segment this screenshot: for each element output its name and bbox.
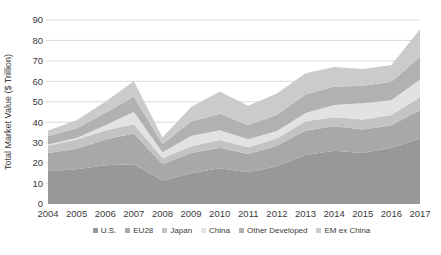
x-tick-label-2010: 2010 (209, 208, 230, 219)
y-tick-label-80: 80 (32, 35, 43, 46)
x-tick-label-2011: 2011 (238, 208, 258, 219)
legend-item-eu28: EU28 (125, 226, 153, 235)
chart-legend: U.S.EU28JapanChinaOther DevelopedEM ex C… (22, 226, 441, 235)
legend-label-other-developed: Other Developed (247, 226, 307, 235)
legend-swatch-u-s- (93, 228, 98, 233)
x-tick-label-2009: 2009 (181, 208, 202, 219)
legend-label-eu28: EU28 (133, 226, 153, 235)
legend-swatch-em-ex-china (316, 228, 321, 233)
stacked-area-chart: 0102030405060708090200420052006200720082… (0, 0, 441, 226)
x-tick-label-2006: 2006 (95, 208, 116, 219)
x-tick-label-2015: 2015 (352, 208, 373, 219)
legend-item-china: China (201, 226, 230, 235)
y-tick-label-30: 30 (32, 137, 43, 148)
x-tick-label-2008: 2008 (152, 208, 173, 219)
chart-page: Total Market Value ($ Trillion) 01020304… (0, 0, 441, 255)
legend-label-em-ex-china: EM ex China (324, 226, 370, 235)
x-tick-label-2017: 2017 (409, 208, 430, 219)
x-tick-label-2014: 2014 (324, 208, 345, 219)
legend-item-other-developed: Other Developed (239, 226, 307, 235)
y-tick-label-60: 60 (32, 76, 43, 87)
y-tick-label-70: 70 (32, 55, 43, 66)
y-tick-label-40: 40 (32, 117, 43, 128)
legend-swatch-other-developed (239, 228, 244, 233)
x-tick-label-2004: 2004 (37, 208, 58, 219)
legend-swatch-eu28 (125, 228, 130, 233)
y-tick-label-10: 10 (32, 178, 43, 189)
legend-label-japan: Japan (170, 226, 192, 235)
x-tick-label-2013: 2013 (295, 208, 316, 219)
legend-label-china: China (209, 226, 230, 235)
legend-label-u-s-: U.S. (101, 226, 117, 235)
legend-item-u-s-: U.S. (93, 226, 117, 235)
legend-item-em-ex-china: EM ex China (316, 226, 370, 235)
legend-swatch-china (201, 228, 206, 233)
legend-swatch-japan (162, 228, 167, 233)
x-tick-label-2012: 2012 (266, 208, 287, 219)
x-tick-label-2007: 2007 (123, 208, 144, 219)
y-tick-label-90: 90 (32, 14, 43, 25)
x-tick-label-2005: 2005 (66, 208, 87, 219)
x-tick-label-2016: 2016 (381, 208, 402, 219)
y-tick-label-50: 50 (32, 96, 43, 107)
y-tick-label-20: 20 (32, 157, 43, 168)
legend-item-japan: Japan (162, 226, 192, 235)
